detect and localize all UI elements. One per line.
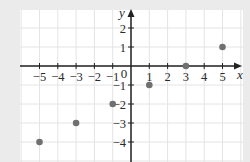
y-tick-label: −4 xyxy=(113,136,127,150)
y-axis-label: y xyxy=(117,5,125,20)
x-axis-label: x xyxy=(236,67,243,82)
data-point xyxy=(219,44,226,51)
x-tick-label: 4 xyxy=(201,70,208,84)
x-tick-label: 3 xyxy=(183,70,189,84)
origin-label: 0 xyxy=(121,66,128,81)
y-tick-label: −3 xyxy=(113,117,126,131)
x-tick-label: −4 xyxy=(51,70,65,84)
data-point xyxy=(183,63,190,70)
y-tick-label: 1 xyxy=(120,41,126,55)
data-point xyxy=(36,139,43,146)
data-point xyxy=(73,120,80,127)
data-point xyxy=(109,101,116,108)
x-tick-label: 5 xyxy=(219,70,225,84)
x-tick-label: −3 xyxy=(69,70,82,84)
scatter-chart: −5−4−3−2−112345 21−1−2−3−4 0 x y xyxy=(0,0,250,162)
x-tick-label: 2 xyxy=(164,70,170,84)
data-point xyxy=(146,82,153,89)
chart-canvas: −5−4−3−2−112345 21−1−2−3−4 0 x y xyxy=(0,0,250,162)
x-tick-label: −5 xyxy=(33,70,46,84)
x-tick-label: −2 xyxy=(88,70,101,84)
y-tick-label: 2 xyxy=(120,22,126,36)
